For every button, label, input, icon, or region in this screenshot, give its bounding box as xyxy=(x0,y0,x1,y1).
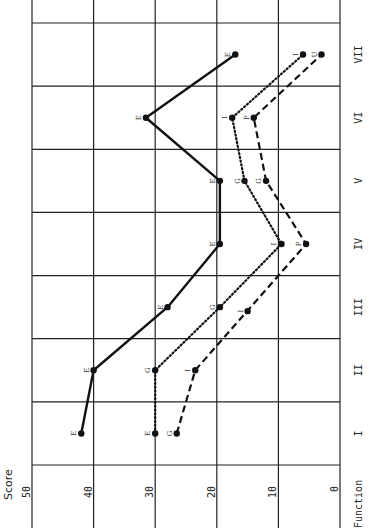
isolated-data-point xyxy=(244,308,250,314)
point-label: G xyxy=(166,430,174,436)
function-tick-label: V xyxy=(353,178,364,184)
function-tick-label: I xyxy=(353,430,364,436)
score-tick-label: 50 xyxy=(21,486,32,498)
data-point xyxy=(78,430,84,436)
data-point xyxy=(217,304,223,310)
data-point xyxy=(251,115,257,121)
score-tick-label: 40 xyxy=(83,486,94,498)
score-axis-title: Score xyxy=(2,469,15,500)
score-tick-label: 20 xyxy=(206,486,217,498)
chart-grid xyxy=(32,0,340,528)
data-point xyxy=(263,178,269,184)
function-tick-label: VI xyxy=(353,112,364,124)
function-tick-label: IV xyxy=(353,238,364,250)
data-point xyxy=(300,51,306,57)
point-label: G xyxy=(144,367,152,373)
point-label: G xyxy=(234,178,242,184)
data-point xyxy=(152,367,158,373)
data-point xyxy=(217,178,223,184)
function-tick-label: II xyxy=(353,364,364,376)
data-point xyxy=(143,115,149,121)
point-label: E xyxy=(70,431,78,436)
data-point xyxy=(241,178,247,184)
point-label: E xyxy=(83,368,91,373)
data-series: EEEEEEEEGGIGIIGIPGPUI xyxy=(70,51,324,436)
point-label: I xyxy=(221,116,229,119)
point-label: E xyxy=(209,241,217,246)
point-label: G xyxy=(209,304,217,310)
score-tick-label: 0 xyxy=(329,486,340,492)
data-point xyxy=(278,241,284,247)
data-point xyxy=(174,430,180,436)
point-label: E xyxy=(144,431,152,436)
data-point xyxy=(232,51,238,57)
point-label: I xyxy=(292,53,300,56)
point-label: E xyxy=(224,52,232,57)
point-label: P xyxy=(295,241,303,246)
data-point xyxy=(152,430,158,436)
data-point xyxy=(192,367,198,373)
series-dotted: EGGIGII xyxy=(144,51,306,436)
function-tick-label: VII xyxy=(353,46,364,64)
line-chart: 01020304050 IIIIIIIVVVIVII EEEEEEEEGGIGI… xyxy=(0,0,372,531)
data-point xyxy=(90,367,96,373)
point-label: I xyxy=(237,310,245,313)
point-label: E xyxy=(157,305,165,310)
point-label: U xyxy=(311,52,319,58)
function-axis-ticks: IIIIIIIVVVIVII xyxy=(353,46,364,437)
point-label: I xyxy=(184,369,192,372)
data-point xyxy=(318,51,324,57)
score-tick-label: 30 xyxy=(144,486,155,498)
score-axis-ticks: 01020304050 xyxy=(21,486,340,498)
function-tick-label: III xyxy=(353,298,364,316)
data-point xyxy=(217,241,223,247)
data-point xyxy=(303,241,309,247)
point-label: G xyxy=(255,178,263,184)
data-point xyxy=(229,115,235,121)
function-axis-title: Function xyxy=(353,480,364,528)
score-tick-label: 10 xyxy=(267,486,278,498)
point-label: I xyxy=(270,242,278,245)
point-label: E xyxy=(209,178,217,183)
data-point xyxy=(164,304,170,310)
series-dashed: GIPGPU xyxy=(166,51,325,436)
point-label: E xyxy=(135,115,143,120)
point-label: P xyxy=(243,115,251,120)
